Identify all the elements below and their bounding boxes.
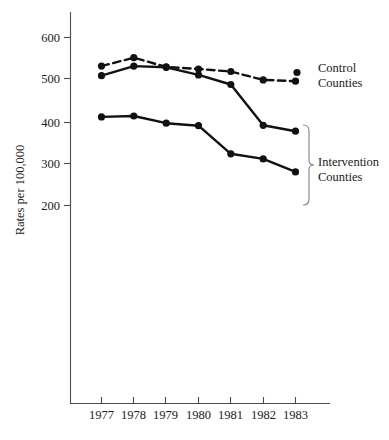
data-point (163, 64, 170, 71)
data-point (163, 120, 170, 127)
x-tick-label-1979: 1979 (153, 408, 178, 422)
legend-control-line2: Counties (318, 76, 363, 90)
control-series-end-marker (293, 69, 300, 76)
data-point (292, 128, 299, 135)
data-point (130, 63, 137, 70)
y-tick-label-400: 400 (41, 116, 60, 130)
data-point (98, 72, 105, 79)
legend-control-line1: Control (318, 61, 357, 75)
legend-intervention-line2: Counties (318, 170, 363, 184)
data-point (227, 81, 234, 88)
line-chart-figure: 600 500 400 300 200 Rates per 100,000 19… (0, 0, 389, 440)
data-point (260, 122, 267, 129)
data-point (227, 150, 234, 157)
y-axis-title: Rates per 100,000 (13, 145, 27, 236)
x-axis-tick-labels: 1977 1978 1979 1980 1981 1982 1983 (89, 408, 308, 422)
y-tick-label-600: 600 (41, 31, 60, 45)
y-tick-label-500: 500 (41, 72, 60, 86)
data-point (130, 112, 137, 119)
data-point (260, 155, 267, 162)
data-point (260, 76, 267, 83)
x-tick-label-1977: 1977 (89, 408, 114, 422)
x-tick-label-1982: 1982 (251, 408, 276, 422)
x-tick-label-1983: 1983 (283, 408, 308, 422)
x-tick-label-1980: 1980 (186, 408, 211, 422)
x-tick-label-1981: 1981 (218, 408, 243, 422)
y-tick-label-200: 200 (41, 199, 60, 213)
data-point (195, 122, 202, 129)
data-point (195, 71, 202, 78)
data-point (292, 168, 299, 175)
data-point (98, 63, 105, 70)
data-point (98, 113, 105, 120)
y-tick-label-300: 300 (41, 157, 60, 171)
data-point (130, 54, 137, 61)
data-point (292, 78, 299, 85)
legend-intervention-line1: Intervention (318, 155, 380, 169)
data-point (227, 68, 234, 75)
x-tick-label-1978: 1978 (121, 408, 146, 422)
